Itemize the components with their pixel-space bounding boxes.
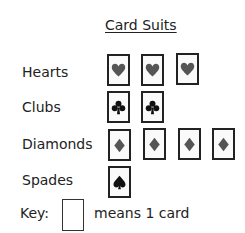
key-label: Key: [20, 205, 49, 221]
diamond-card-icon [108, 129, 131, 161]
row-label-hearts: Hearts [22, 64, 68, 80]
spade-card-icon [108, 166, 131, 198]
diamond-card-icon [212, 128, 235, 160]
club-card-icon [107, 91, 130, 123]
row-label-clubs: Clubs [22, 99, 61, 115]
row-label-spades: Spades [22, 172, 73, 188]
heart-card-icon [176, 53, 199, 85]
key-card-icon [62, 199, 84, 231]
diamond-card-icon [178, 128, 201, 160]
heart-card-icon [141, 54, 164, 86]
heart-card-icon [107, 54, 130, 86]
club-card-icon [141, 91, 164, 123]
key-text: means 1 card [94, 205, 189, 221]
chart-title: Card Suits [105, 17, 177, 33]
diamond-card-icon [143, 128, 166, 160]
row-label-diamonds: Diamonds [22, 136, 93, 152]
